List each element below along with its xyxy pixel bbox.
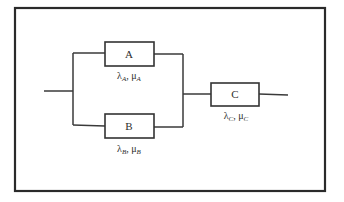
block-b-params: λB, μB <box>117 143 141 158</box>
wire-to-b <box>73 125 105 126</box>
block-b-label: B <box>125 120 132 132</box>
mu-subscript: A <box>137 75 141 83</box>
diagram-canvas <box>0 0 344 202</box>
block-c-params: λC, μC <box>224 110 249 125</box>
output-line <box>259 94 288 95</box>
mu-subscript: C <box>244 115 249 123</box>
block-a-params: λA, μA <box>117 70 141 85</box>
mu-subscript: B <box>137 148 141 156</box>
block-a-label: A <box>125 48 133 60</box>
block-c-label: C <box>231 88 238 100</box>
outer-frame <box>15 8 325 191</box>
